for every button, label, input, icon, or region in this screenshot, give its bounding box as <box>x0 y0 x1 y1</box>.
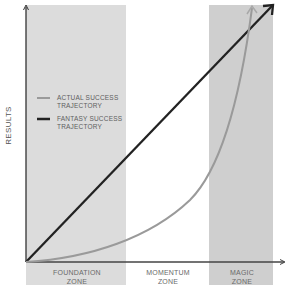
magic-zone-band <box>209 5 273 285</box>
zone-label-magic: MAGIC ZONE <box>230 268 254 286</box>
legend-actual-label: ACTUAL SUCCESS TRAJECTORY <box>57 94 118 109</box>
legend-fantasy-label: FANTASY SUCCESS TRAJECTORY <box>57 115 122 130</box>
y-axis-label: RESULTS <box>4 106 13 144</box>
foundation-zone-band <box>26 5 126 285</box>
success-trajectory-diagram <box>0 0 286 297</box>
zone-label-foundation: FOUNDATION ZONE <box>53 268 101 286</box>
zone-label-momentum: MOMENTUM ZONE <box>146 268 190 286</box>
